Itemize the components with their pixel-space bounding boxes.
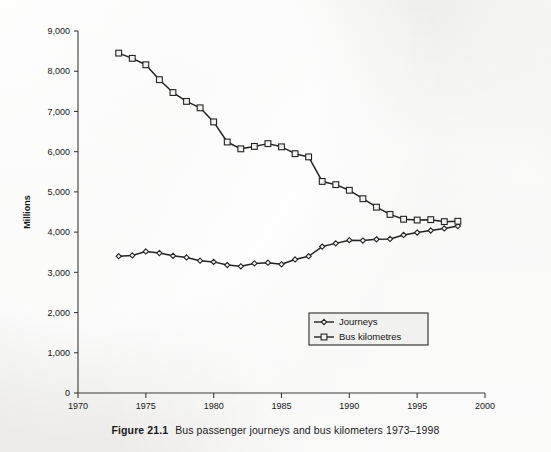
- data-point: [197, 105, 203, 111]
- data-point: [428, 217, 434, 223]
- y-axis-title: Millions: [22, 195, 32, 229]
- y-tick-label: 4,000: [47, 227, 70, 237]
- data-point: [184, 98, 190, 104]
- data-point: [130, 253, 135, 258]
- x-tick-label: 2000: [475, 401, 495, 411]
- data-point: [360, 196, 366, 202]
- data-point: [170, 253, 175, 258]
- data-point: [238, 264, 243, 269]
- data-point: [414, 217, 420, 223]
- line-chart: 01,0002,0003,0004,0005,0006,0007,0008,00…: [0, 0, 551, 452]
- x-tick-label: 1985: [271, 401, 291, 411]
- data-point: [442, 226, 447, 231]
- x-tick-label: 1980: [204, 401, 224, 411]
- data-point: [292, 257, 297, 262]
- data-point: [374, 237, 379, 242]
- x-tick-label: 1975: [136, 401, 156, 411]
- data-point: [224, 139, 230, 145]
- data-point: [211, 119, 217, 125]
- y-tick-label: 1,000: [47, 348, 70, 358]
- data-point: [198, 258, 203, 263]
- y-axis: 01,0002,0003,0004,0005,0006,0007,0008,00…: [47, 26, 78, 398]
- data-point: [441, 219, 447, 225]
- y-tick-label: 6,000: [47, 147, 70, 157]
- data-point: [279, 144, 285, 150]
- data-point: [306, 154, 312, 160]
- y-tick-label: 8,000: [47, 66, 70, 76]
- legend-label: Journeys: [339, 316, 378, 327]
- data-point: [292, 151, 298, 157]
- data-point: [374, 204, 380, 210]
- data-point: [143, 62, 149, 68]
- data-point: [387, 236, 392, 241]
- legend-label: Bus kilometres: [339, 331, 402, 342]
- y-tick-label: 0: [65, 388, 70, 398]
- y-axis-title-group: Millions: [22, 195, 32, 229]
- y-tick-label: 7,000: [47, 107, 70, 117]
- data-point: [211, 259, 216, 264]
- chart-series-group: [116, 50, 461, 269]
- x-tick-label: 1995: [407, 401, 427, 411]
- data-point: [116, 50, 122, 56]
- data-point: [184, 255, 189, 260]
- data-point: [157, 250, 162, 255]
- figure-container: 01,0002,0003,0004,0005,0006,0007,0008,00…: [0, 0, 551, 452]
- data-point: [401, 232, 406, 237]
- y-tick-label: 5,000: [47, 187, 70, 197]
- data-point: [346, 187, 352, 193]
- data-point: [455, 218, 461, 224]
- y-tick-label: 9,000: [47, 26, 70, 36]
- y-tick-label: 3,000: [47, 268, 70, 278]
- figure-caption-text: Bus passenger journeys and bus kilometer…: [175, 424, 439, 436]
- data-point: [265, 260, 270, 265]
- data-point: [428, 228, 433, 233]
- data-point: [143, 249, 148, 254]
- data-point: [238, 146, 244, 152]
- data-point: [251, 144, 257, 150]
- data-point: [333, 241, 338, 246]
- x-axis: 1970197519801985199019952000: [68, 393, 495, 411]
- data-point: [265, 141, 271, 147]
- data-point: [225, 262, 230, 267]
- series-journeys: [116, 223, 460, 268]
- data-point: [129, 55, 135, 61]
- chart-legend: JourneysBus kilometres: [309, 313, 428, 345]
- data-point: [387, 212, 393, 218]
- figure-caption-label: Figure 21.1: [112, 424, 169, 436]
- figure-caption: Figure 21.1Bus passenger journeys and bu…: [0, 424, 551, 436]
- data-point: [279, 262, 284, 267]
- data-point: [116, 254, 121, 259]
- legend-marker-square: [321, 334, 327, 340]
- data-point: [319, 179, 325, 185]
- series-bus-kilometres: [116, 50, 461, 224]
- data-point: [157, 77, 163, 83]
- data-point: [170, 90, 176, 96]
- x-tick-label: 1990: [339, 401, 359, 411]
- data-point: [347, 238, 352, 243]
- y-tick-label: 2,000: [47, 308, 70, 318]
- data-point: [360, 238, 365, 243]
- data-point: [333, 182, 339, 188]
- data-point: [415, 230, 420, 235]
- data-point: [401, 216, 407, 222]
- x-tick-label: 1970: [68, 401, 88, 411]
- data-point: [252, 261, 257, 266]
